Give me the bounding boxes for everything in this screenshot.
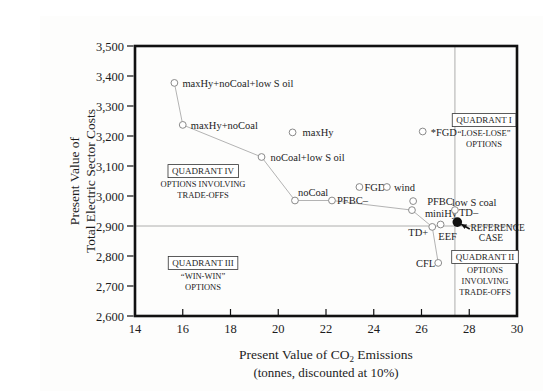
y-axis-title-line1: Present Value of [67,136,82,225]
data-point-label: TD+ [408,227,428,238]
y-tick-label: 3,400 [96,70,124,84]
x-tick-label: 22 [320,322,333,336]
data-point-label: *FGD [431,127,458,138]
data-point-label: maxHy+noCoal [191,120,258,131]
marker-filled-dot [453,217,463,227]
marker-open-circle [289,129,296,136]
marker-open-circle [419,128,426,135]
data-point-PFBC: PFBC [410,196,453,207]
y-tick-label: 2,900 [96,220,124,234]
y-tick-label: 3,100 [96,160,124,174]
y-tick-label: 3,000 [96,190,124,204]
marker-open-circle [383,184,390,191]
x-axis-title: Present Value of CO2 Emissions [239,347,413,364]
data-point-label: wind [394,182,416,193]
data-point-label: noCoal+low S oil [271,152,345,163]
quadrant-2-annotation: QUADRANT IIOPTIONSINVOLVINGTRADE-OFFS [452,250,519,297]
x-tick-label: 30 [511,322,524,336]
data-point-label: PFBC– [337,195,369,206]
x-tick-label: 26 [415,322,428,336]
x-tick-label: 20 [272,322,285,336]
y-tick-label: 2,800 [96,250,124,264]
data-point-maxHy: maxHy [289,127,334,138]
data-point-star-FGD: *FGD [419,127,457,138]
data-point-reference-case [453,217,463,227]
data-point-noCoal: noCoal [292,187,329,204]
y-axis-title-group: Present Value ofTotal Electric Sector Co… [67,109,98,253]
data-point-maxHy-noCoal-lowSoil: maxHy+noCoal+low S oil [171,78,293,89]
marker-open-circle [429,224,436,231]
quadrant-1-title: QUADRANT I [456,115,512,125]
marker-open-circle [179,122,186,129]
marker-open-circle [435,260,442,267]
data-point-label: maxHy [303,127,335,138]
low-s-coal-label: low S coal [452,197,496,208]
marker-open-circle [329,197,336,204]
marker-open-circle [292,197,299,204]
marker-open-circle [437,221,444,228]
x-axis-subtitle: (tonnes, discounted at 10%) [253,365,398,380]
reference-case-line2: CASE [479,233,503,243]
x-tick-label: 18 [224,322,237,336]
data-point-label: TD– [459,207,479,218]
x-tick-label: 16 [177,322,190,336]
marker-open-circle [258,154,265,161]
x-tick-label: 24 [368,322,381,336]
x-tick-label: 28 [463,322,476,336]
chart-canvas: 2,6002,7002,8002,9003,0003,1003,2003,300… [40,16,543,391]
quadrant-4-text-line: TRADE-OFFS [177,190,229,200]
quadrant-3-text-line: OPTIONS [185,282,221,292]
quadrant-1-text-line: “LOSE-LOSE” [458,128,511,138]
y-tick-label: 3,200 [96,130,124,144]
quadrant-2-text-line: TRADE-OFFS [459,287,511,297]
quadrant-2-title: QUADRANT II [456,252,515,262]
data-point-maxHy-noCoal: maxHy+noCoal [179,120,258,131]
y-tick-label: 3,300 [96,100,124,114]
y-axis-title-line2: Total Electric Sector Costs [83,109,98,253]
emissions-cost-scatter-chart: 2,6002,7002,8002,9003,0003,1003,2003,300… [40,16,543,391]
reference-case-line1: REFERENCE [470,223,525,233]
data-point-label: CFL [416,258,435,269]
marker-open-circle [409,207,416,214]
marker-open-circle [171,80,178,87]
quadrant-2-text-line: INVOLVING [462,276,509,286]
quadrant-4-title: QUADRANT IV [172,166,235,176]
data-point-label: EEF [438,231,457,242]
quadrant-1-text-line: OPTIONS [466,139,502,149]
y-tick-label: 2,600 [96,310,124,324]
quadrant-1-annotation: QUADRANT I“LOSE-LOSE”OPTIONS [452,114,516,150]
quadrant-3-text-line: “WIN-WIN” [181,271,226,281]
y-tick-label: 3,500 [96,40,124,54]
quadrant-4-annotation: QUADRANT IVOPTIONS INVOLVINGTRADE-OFFS [161,165,246,201]
data-point-FGD: FGD [356,182,386,193]
data-point-PFBC-minus: PFBC– [329,195,369,206]
data-point-CFL: CFL [416,258,442,269]
quadrant-3-annotation: QUADRANT III“WIN-WIN”OPTIONS [168,256,238,292]
data-point-label: noCoal [298,187,328,198]
data-point-label: FGD [364,182,385,193]
quadrant-3-title: QUADRANT III [172,258,234,268]
x-tick-label: 14 [129,322,142,336]
y-tick-label: 2,700 [96,280,124,294]
marker-open-circle [410,198,417,205]
marker-open-circle [356,184,363,191]
data-point-label: PFBC [427,196,453,207]
data-point-wind: wind [383,182,415,193]
quadrant-2-text-line: OPTIONS [467,265,503,275]
data-point-noCoal-lowSoil: noCoal+low S oil [258,152,345,163]
data-point-label: maxHy+noCoal+low S oil [182,78,293,89]
quadrant-4-text-line: OPTIONS INVOLVING [161,179,246,189]
